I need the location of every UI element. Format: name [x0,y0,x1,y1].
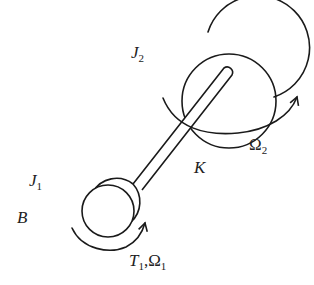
label-omega2: Ω2 [249,135,267,156]
large-disc [182,0,310,148]
shaft-body [133,67,233,190]
shaft [133,67,233,190]
label-j1: J1 [29,171,42,192]
label-b: B [17,208,28,227]
label-j2: J2 [131,43,144,64]
small-disc [82,178,140,237]
torsional-system-diagram: J2 Ω2 K J1 B T1,Ω1 [0,0,314,285]
label-t1-omega1: T1,Ω1 [129,251,166,272]
label-k: K [193,158,207,177]
small-disc-face [82,185,134,237]
